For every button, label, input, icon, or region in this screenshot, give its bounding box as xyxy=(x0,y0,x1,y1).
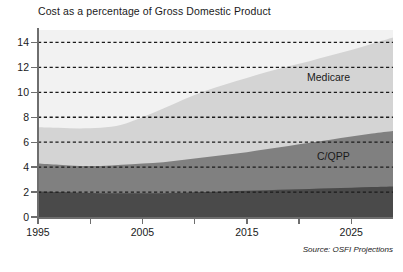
stacked-area-plot xyxy=(38,30,393,217)
x-tick-2000 xyxy=(90,218,91,224)
x-tick-2020 xyxy=(298,218,299,224)
y-tick-label-0: 0 xyxy=(3,211,29,223)
y-tick-10 xyxy=(31,92,38,93)
x-tick-label-2025: 2025 xyxy=(328,226,374,238)
y-tick-label-2: 2 xyxy=(3,186,29,198)
x-tick-2025 xyxy=(351,218,352,224)
y-tick-label-14: 14 xyxy=(3,36,29,48)
y-tick-6 xyxy=(31,142,38,143)
y-tick-label-6: 6 xyxy=(3,136,29,148)
y-tick-label-8: 8 xyxy=(3,111,29,123)
x-tick-label-1995: 1995 xyxy=(15,226,61,238)
x-tick-1995 xyxy=(37,218,38,224)
source-note: Source: OSFI Projections xyxy=(303,245,393,254)
y-axis-spine xyxy=(37,28,39,219)
y-tick-label-10: 10 xyxy=(3,86,29,98)
y-tick-label-12: 12 xyxy=(3,61,29,73)
y-tick-label-4: 4 xyxy=(3,161,29,173)
y-tick-14 xyxy=(31,42,38,43)
chart-title: Cost as a percentage of Gross Domestic P… xyxy=(38,5,271,17)
series-label-cqpp: C/QPP xyxy=(317,150,350,162)
x-tick-2010 xyxy=(194,218,195,224)
y-tick-2 xyxy=(31,191,38,192)
plot-area xyxy=(38,30,393,217)
x-tick-label-2005: 2005 xyxy=(119,226,165,238)
y-tick-4 xyxy=(31,166,38,167)
y-tick-8 xyxy=(31,117,38,118)
chart-figure: Cost as a percentage of Gross Domestic P… xyxy=(0,0,403,272)
series-label-medicare: Medicare xyxy=(307,71,350,83)
x-tick-label-2015: 2015 xyxy=(224,226,270,238)
x-tick-2015 xyxy=(246,218,247,224)
y-tick-12 xyxy=(31,67,38,68)
x-tick-2005 xyxy=(142,218,143,224)
